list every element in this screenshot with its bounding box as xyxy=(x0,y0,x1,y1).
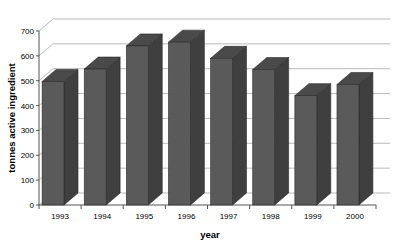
x-tick-label: 1993 xyxy=(51,212,69,221)
bar-column xyxy=(42,69,78,205)
x-tick-label: 1998 xyxy=(262,212,280,221)
bar-column xyxy=(168,30,204,205)
x-tick-label: 2000 xyxy=(346,212,364,221)
y-tick-label: 300 xyxy=(21,126,35,135)
x-tick-label: 1999 xyxy=(304,212,322,221)
bar-side-face xyxy=(190,30,204,205)
bar-column xyxy=(253,58,289,205)
y-tick-label: 0 xyxy=(30,201,35,210)
y-tick-label: 400 xyxy=(21,102,35,111)
x-tick-label: 1996 xyxy=(178,212,196,221)
x-axis-title: year xyxy=(200,229,220,240)
y-axis-title: tonnes active ingredient xyxy=(6,63,17,173)
bar-column xyxy=(337,72,373,205)
bar-front-face xyxy=(168,42,190,205)
bar-front-face xyxy=(42,81,64,205)
bar-side-face xyxy=(359,72,373,205)
y-tick-label: 100 xyxy=(21,176,35,185)
bar-side-face xyxy=(64,69,78,205)
y-tick-label: 700 xyxy=(21,27,35,36)
bar-side-face xyxy=(275,58,289,205)
x-tick-label: 1995 xyxy=(135,212,153,221)
bar-side-face xyxy=(233,46,247,205)
bar-side-face xyxy=(148,34,162,205)
bar-front-face xyxy=(126,46,148,205)
bar-chart: 0100200300400500600700 19931994199519961… xyxy=(0,0,406,243)
y-tick-label: 200 xyxy=(21,151,35,160)
y-tick-label: 500 xyxy=(21,77,35,86)
bar-front-face xyxy=(84,69,106,205)
y-tick-label: 600 xyxy=(21,52,35,61)
x-tick-label: 1994 xyxy=(93,212,111,221)
bar-column xyxy=(84,57,120,205)
bar-side-face xyxy=(317,84,331,205)
bar-front-face xyxy=(337,84,359,205)
bar-column xyxy=(126,34,162,205)
x-tick-label: 1997 xyxy=(220,212,238,221)
bar-side-face xyxy=(106,57,120,205)
bar-front-face xyxy=(295,96,317,205)
bar-column xyxy=(295,84,331,205)
bar-front-face xyxy=(253,70,275,205)
bar-front-face xyxy=(211,58,233,205)
bar-column xyxy=(211,46,247,205)
chart-canvas: 0100200300400500600700 19931994199519961… xyxy=(0,0,406,243)
